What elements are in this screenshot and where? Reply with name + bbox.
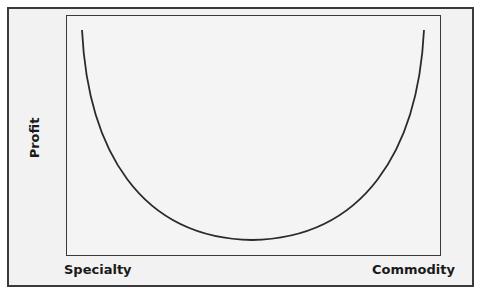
x-axis-label-right: Commodity [372, 262, 455, 277]
y-axis-label: Profit [27, 118, 42, 159]
x-axis-label-left: Specialty [64, 262, 132, 277]
profit-curve [0, 0, 484, 297]
